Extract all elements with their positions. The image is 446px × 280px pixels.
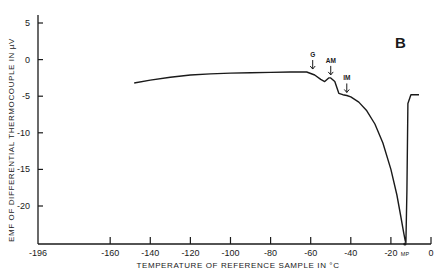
dta-chart: 50-5-10-15-20-196-160-140-120-100-80-60-… — [0, 0, 446, 280]
y-axis-label: EMF OF DIFFERENTIAL THERMOCOUPLE IN µV — [7, 38, 16, 242]
dta-curve — [134, 72, 419, 243]
annotation-label: AM — [326, 57, 336, 64]
annotation-label: G — [310, 51, 315, 58]
y-tick-label: -15 — [17, 164, 30, 174]
y-tick-label: -10 — [17, 128, 30, 138]
x-tick-label: -100 — [221, 248, 239, 258]
y-tick-label: -20 — [17, 201, 30, 211]
x-tick-label: -120 — [181, 248, 199, 258]
x-tick-label: -196 — [29, 248, 47, 258]
x-tick-label: 0 — [428, 248, 433, 258]
x-tick-label: -160 — [101, 248, 119, 258]
annotation-label: IM — [343, 74, 350, 81]
x-tick-label: -20 — [384, 248, 397, 258]
annotation-label: MP — [401, 251, 410, 257]
y-tick-label: -5 — [22, 91, 30, 101]
x-tick-label: -140 — [141, 248, 159, 258]
chart-canvas: 50-5-10-15-20-196-160-140-120-100-80-60-… — [0, 0, 446, 280]
x-tick-label: -80 — [264, 248, 277, 258]
panel-label: B — [395, 34, 406, 51]
y-tick-label: 0 — [25, 55, 30, 65]
x-axis-label: TEMPERATURE OF REFERENCE SAMPLE IN °C — [136, 261, 339, 270]
y-tick-label: 5 — [25, 18, 30, 28]
mp-marker — [403, 242, 406, 245]
x-tick-label: -40 — [344, 248, 357, 258]
data-series — [134, 72, 419, 243]
axes: 50-5-10-15-20-196-160-140-120-100-80-60-… — [17, 15, 434, 258]
x-tick-label: -60 — [304, 248, 317, 258]
